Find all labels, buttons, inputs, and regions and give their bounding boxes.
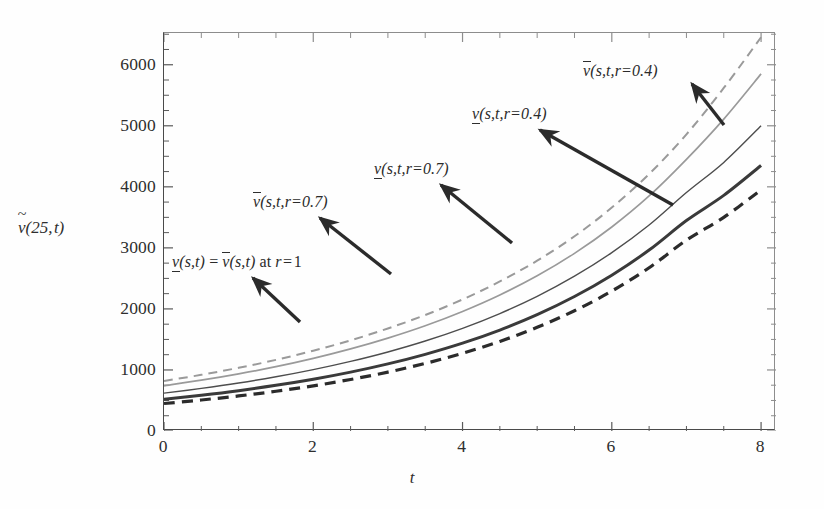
figure-container: v(25, t) 0100020003000400050006000 02468… <box>0 0 824 509</box>
x-tick-label: 0 <box>159 436 168 457</box>
x-tick-label: 6 <box>606 436 615 457</box>
curve-upper-r07 <box>164 74 761 386</box>
y-tick-label: 4000 <box>120 175 156 196</box>
y-axis-title: v(25, t) <box>18 218 64 238</box>
curves-svg <box>164 33 776 431</box>
x-axis-title-text: t <box>410 468 415 487</box>
annot-lower-r07: v(s,t,r=0.7) <box>374 160 449 178</box>
y-tick-label: 2000 <box>120 297 156 318</box>
x-tick-label: 2 <box>308 436 317 457</box>
x-tick-label: 8 <box>756 436 765 457</box>
x-axis-title: t <box>0 468 824 488</box>
y-tick-label: 0 <box>147 420 156 441</box>
y-tick-label: 3000 <box>120 236 156 257</box>
annot-lower-r04: v(s,t,r=0.4) <box>472 105 547 123</box>
annot-upper-r04: v(s,t,r=0.4) <box>583 62 658 80</box>
y-tick-label: 1000 <box>120 358 156 379</box>
y-tick-label: 5000 <box>120 114 156 135</box>
x-tick-label: 4 <box>457 436 466 457</box>
annot-upper-r07: v(s,t,r=0.7) <box>253 193 328 211</box>
plot-area <box>163 32 775 430</box>
annot-center-r1: v(s,t) = v(s,t) at r = 1 <box>172 253 302 271</box>
y-tick-label: 6000 <box>120 53 156 74</box>
x-axis-tick-labels: 02468 <box>163 436 775 462</box>
y-axis-tick-labels: 0100020003000400050006000 <box>96 32 156 430</box>
